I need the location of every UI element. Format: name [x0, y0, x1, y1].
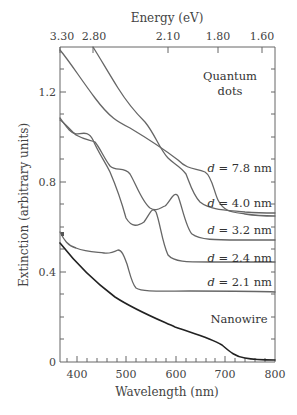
top-tick-label: 2.80: [82, 30, 107, 43]
y-axis-title: Extinction (arbitrary units): [17, 123, 31, 287]
top-axis-title: Energy (eV): [131, 11, 204, 25]
top-tick-label: 1.80: [206, 30, 231, 43]
y-tick-label: 0: [49, 356, 56, 369]
data-marker: [61, 232, 64, 236]
size-labels: d = 7.8 nm d = 4.0 nm d = 3.2 nm d = 2.4…: [207, 161, 272, 289]
top-tick-label: 1.60: [250, 30, 275, 43]
extinction-chart: Energy (eV) 3.30 2.80 2.10 1.80 1.60 400…: [0, 0, 297, 415]
x-tick-label: 600: [166, 368, 187, 381]
nanowire-label: Nanowire: [210, 312, 267, 326]
y-tick-label: 0.4: [39, 266, 57, 279]
y-tick-label: 1.2: [39, 86, 57, 99]
label-d-2-1nm: d = 2.1 nm: [207, 275, 272, 289]
top-tick-label: 2.10: [156, 30, 181, 43]
x-axis-title: Wavelength (nm): [115, 385, 219, 399]
label-d-4-0nm: d = 4.0 nm: [207, 196, 272, 210]
top-tick-label: 3.30: [50, 30, 75, 43]
quantum-dots-label-2: dots: [218, 84, 243, 98]
y-tick-label: 0.8: [39, 176, 57, 189]
label-d-2-4nm: d = 2.4 nm: [207, 251, 272, 265]
quantum-dots-label: Quantum: [203, 69, 257, 83]
label-d-3-2nm: d = 3.2 nm: [207, 223, 272, 237]
x-tick-label: 500: [116, 368, 137, 381]
x-tick-label: 700: [215, 368, 236, 381]
x-tick-label: 800: [265, 368, 286, 381]
label-d-7-8nm: d = 7.8 nm: [207, 161, 272, 175]
x-tick-label: 400: [67, 368, 88, 381]
